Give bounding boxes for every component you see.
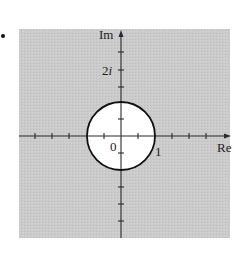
imaginary-axis-label: Im [99,27,113,42]
origin-label: 0 [110,139,117,154]
y-tick-label-unit: i [109,63,113,78]
complex-plane-figure: Im Re 0 1 2i [0,0,240,253]
x-tick-label-1: 1 [155,144,162,159]
y-tick-label-2i: 2i [102,63,113,78]
real-axis-label: Re [217,140,232,155]
